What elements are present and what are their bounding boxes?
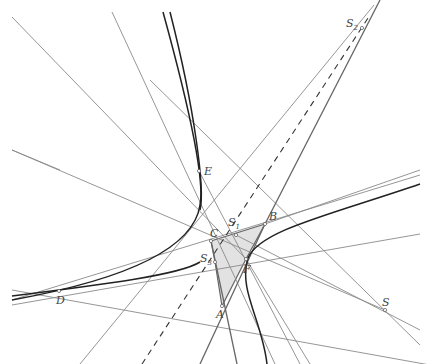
label-C: C bbox=[210, 227, 219, 240]
label-F: F bbox=[242, 263, 251, 276]
point-B: B bbox=[263, 210, 277, 226]
triangle-sides bbox=[200, 0, 380, 364]
dashed-line bbox=[142, 15, 370, 364]
label-D: D bbox=[55, 294, 65, 307]
point-A: A bbox=[215, 304, 224, 321]
label-S2: S2 bbox=[346, 17, 359, 32]
label-S1: S1 bbox=[228, 216, 240, 231]
label-A: A bbox=[215, 308, 224, 321]
label-B: B bbox=[268, 210, 277, 223]
point-S: S bbox=[382, 296, 390, 312]
point-D: D bbox=[55, 289, 65, 307]
label-E: E bbox=[203, 165, 212, 178]
label-S: S bbox=[382, 296, 390, 309]
geometry-diagram: S2 E S1 B C S3 F D A S bbox=[0, 0, 431, 364]
label-S3: S3 bbox=[200, 252, 213, 267]
